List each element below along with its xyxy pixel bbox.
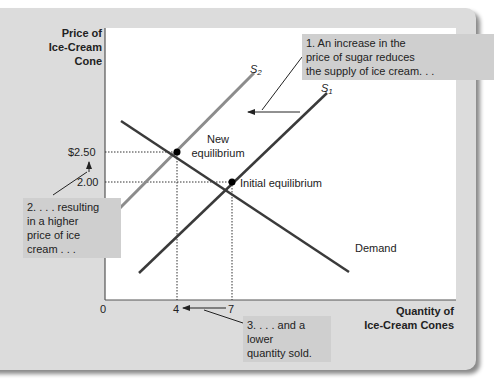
s2-subscript: 2: [257, 68, 261, 77]
note2-line: in a higher: [27, 214, 117, 228]
y-axis-label-line: Cone: [30, 54, 102, 68]
y-tick-250: $2.50: [68, 145, 96, 159]
new-equilibrium-label: New equilibrium: [189, 132, 247, 160]
annotation-note-1: 1. An increase in the price of sugar red…: [302, 34, 494, 80]
note1-line: 1. An increase in the: [306, 36, 490, 50]
initial-equilibrium-point: [229, 179, 236, 186]
x-axis-label: Quantity of Ice-Cream Cones: [360, 304, 454, 332]
note3-line: 3. . . . and a lower: [247, 318, 327, 346]
x-axis-label-line: Ice-Cream Cones: [360, 318, 454, 332]
note3-line: quantity sold.: [247, 346, 327, 360]
initial-equilibrium-label: Initial equilibrium: [240, 176, 322, 190]
s2-label: S2: [250, 62, 262, 80]
note1-line: price of sugar reduces: [306, 50, 490, 64]
demand-label: Demand: [355, 241, 397, 255]
x-tick-4: 4: [173, 302, 179, 316]
x-tick-7: 7: [228, 302, 234, 316]
note1-line: the supply of ice cream. . .: [306, 64, 490, 78]
new-eq-line: New: [189, 132, 247, 146]
note3-leader: [204, 310, 246, 324]
note1-leader: [262, 57, 302, 110]
y-tick-200: 2.00: [77, 175, 98, 189]
y-axis-label: Price of Ice-Cream Cone: [30, 26, 102, 68]
note2-line: price of ice: [27, 228, 117, 242]
x-axis-label-line: Quantity of: [360, 304, 454, 318]
new-eq-line: equilibrium: [189, 146, 247, 160]
annotation-note-3: 3. . . . and a lower quantity sold.: [243, 316, 331, 362]
y-axis-label-line: Price of: [30, 26, 102, 40]
s1-subscript: 1: [328, 87, 332, 96]
annotation-note-2: 2. . . . resulting in a higher price of …: [23, 198, 121, 258]
y-axis-label-line: Ice-Cream: [30, 40, 102, 54]
s1-label: S1: [321, 81, 333, 99]
x-tick-0: 0: [100, 302, 106, 316]
new-equilibrium-point: [174, 149, 181, 156]
note2-line: 2. . . . resulting: [27, 200, 117, 214]
note2-line: cream . . .: [27, 242, 117, 256]
